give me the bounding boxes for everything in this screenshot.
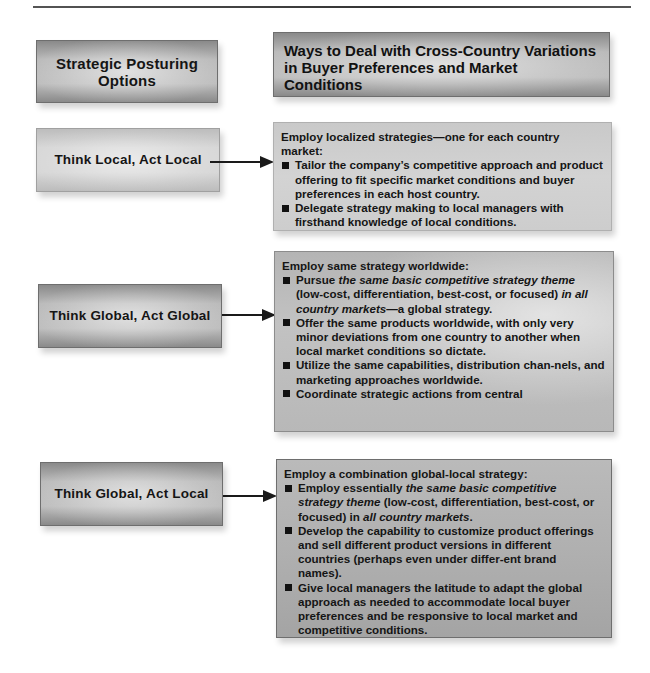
bullet-text: the same basic competitive strategy them… bbox=[339, 273, 575, 286]
square-bullet-icon bbox=[285, 485, 292, 492]
header-left-title: Strategic Posturing Options bbox=[37, 55, 217, 89]
bullet-text: Coordinate strategic actions from centra… bbox=[296, 387, 523, 400]
option-think-local-act-local: Think Local, Act Local bbox=[36, 128, 220, 192]
bullet-item: Utilize the same capabilities, distribut… bbox=[282, 358, 605, 386]
bullet-item: Develop the capability to customize prod… bbox=[284, 524, 603, 581]
square-bullet-icon bbox=[283, 277, 290, 284]
strategy-box-global-local: Employ a combination global-local strate… bbox=[276, 459, 612, 638]
bullet-item: Pursue the same basic competitive strate… bbox=[282, 273, 605, 316]
square-bullet-icon bbox=[282, 205, 289, 212]
square-bullet-icon bbox=[283, 362, 290, 369]
option-label: Think Local, Act Local bbox=[54, 152, 201, 168]
bullet-item: Offer the same products worldwide, with … bbox=[282, 316, 605, 359]
option-label: Think Global, Act Local bbox=[54, 486, 208, 502]
option-think-global-act-local: Think Global, Act Local bbox=[40, 462, 223, 526]
square-bullet-icon bbox=[282, 162, 289, 169]
header-right-title: Ways to Deal with Cross-Country Variatio… bbox=[284, 42, 596, 93]
bullet-text: (low-cost, differentiation, best-cost, o… bbox=[296, 287, 561, 300]
bullet-text: Employ essentially bbox=[298, 481, 406, 494]
option-label: Think Global, Act Global bbox=[49, 308, 210, 324]
strategy-lead: Employ same strategy worldwide: bbox=[282, 259, 605, 273]
bullet-text: Pursue bbox=[296, 273, 339, 286]
square-bullet-icon bbox=[283, 319, 290, 326]
bullet-text: Tailor the company’s competitive approac… bbox=[295, 158, 603, 199]
strategy-bullets: Pursue the same basic competitive strate… bbox=[282, 273, 605, 401]
header-strategic-posturing-options: Strategic Posturing Options bbox=[36, 40, 218, 103]
strategy-box-global: Employ same strategy worldwide: Pursue t… bbox=[274, 251, 614, 432]
bullet-item: Delegate strategy making to local manage… bbox=[281, 201, 603, 229]
arrow-right-icon bbox=[223, 490, 277, 502]
bullet-text: Give local managers the latitude to adap… bbox=[298, 581, 582, 637]
arrow-right-icon bbox=[210, 156, 274, 168]
bullet-text: Develop the capability to customize prod… bbox=[298, 524, 594, 580]
strategy-box-localized: Employ localized strategies—one for each… bbox=[273, 122, 612, 231]
option-think-global-act-global: Think Global, Act Global bbox=[38, 284, 222, 348]
header-ways-to-deal: Ways to Deal with Cross-Country Variatio… bbox=[273, 32, 610, 97]
bullet-text: Delegate strategy making to local manage… bbox=[295, 201, 564, 228]
bullet-item: Give local managers the latitude to adap… bbox=[284, 581, 603, 638]
bullet-item: Tailor the company’s competitive approac… bbox=[281, 158, 603, 201]
bullet-text: . bbox=[469, 510, 472, 523]
bullet-text: —a global strategy. bbox=[386, 302, 492, 315]
bullet-item: Employ essentially the same basic compet… bbox=[284, 481, 603, 524]
strategy-bullets: Employ essentially the same basic compet… bbox=[284, 481, 603, 637]
top-rule bbox=[33, 6, 631, 8]
strategy-bullets: Tailor the company’s competitive approac… bbox=[281, 158, 603, 229]
bullet-text: Utilize the same capabilities, distribut… bbox=[296, 358, 605, 385]
square-bullet-icon bbox=[285, 527, 292, 534]
square-bullet-icon bbox=[285, 584, 292, 591]
arrow-right-icon bbox=[222, 309, 276, 321]
strategy-lead: Employ a combination global-local strate… bbox=[284, 467, 603, 481]
square-bullet-icon bbox=[283, 390, 290, 397]
strategy-lead: Employ localized strategies—one for each… bbox=[281, 130, 603, 158]
bullet-item: Coordinate strategic actions from centra… bbox=[282, 387, 605, 401]
bullet-text: Offer the same products worldwide, with … bbox=[296, 316, 580, 357]
bullet-text: all country markets bbox=[363, 510, 469, 523]
